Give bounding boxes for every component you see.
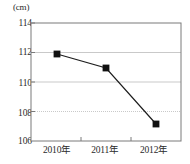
line-chart-figure: (cm) 114 112 110 108 106 2010年 2011年 201… [0,0,190,164]
data-point-marker-2012 [153,121,160,128]
plot-area [0,0,190,164]
data-point-marker-2010 [54,51,61,58]
data-point-marker-2011 [103,65,110,72]
